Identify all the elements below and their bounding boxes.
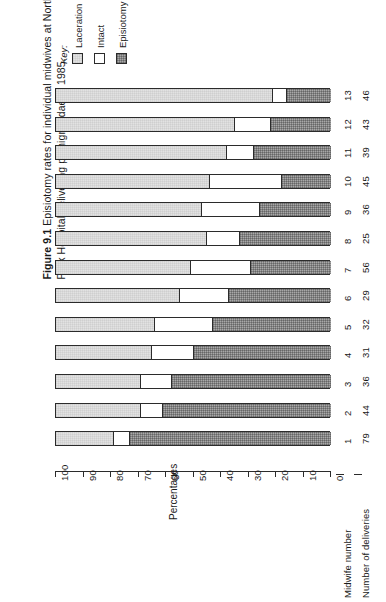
segment-episiotomy [287,89,331,102]
segment-intact [202,203,260,216]
deliveries-count-8: 25 [360,233,371,244]
deliveries-count-11: 39 [360,147,371,158]
midwife-number-8: 8 [342,239,353,244]
legend-label-laceration: Laceration [73,4,84,48]
segment-episiotomy [251,261,331,274]
deliveries-count-13: 46 [360,90,371,101]
midwife-number-6: 6 [342,296,353,301]
segment-episiotomy [254,146,331,159]
axis-tick-20 [275,471,276,477]
axis-tick-label-20: 20 [279,470,290,481]
segment-laceration [56,432,114,445]
row-header-midwife: Midwife number [342,530,353,598]
axis-tick-70 [138,471,139,477]
segment-intact [152,346,193,359]
segment-episiotomy [229,289,331,302]
axis-tick-label-40: 40 [224,470,235,481]
bar-midwife-11 [55,145,330,160]
bar-midwife-4 [55,345,330,360]
row-header-deliveries: Number of deliveries [360,509,371,598]
midwife-number-12: 12 [342,119,353,130]
deliveries-count-9: 36 [360,204,371,215]
segment-intact [155,318,213,331]
deliveries-count-3: 36 [360,376,371,387]
axis-tick-40 [220,471,221,477]
midwife-number-13: 13 [342,90,353,101]
segment-laceration [56,146,227,159]
deliveries-count-4: 31 [360,347,371,358]
bar-midwife-8 [55,231,330,246]
segment-intact [227,146,255,159]
deliveries-header-dash [354,474,362,475]
segment-episiotomy [213,318,331,331]
segment-laceration [56,318,155,331]
segment-laceration [56,261,191,274]
segment-laceration [56,175,210,188]
axis-tick-label-50: 50 [197,470,208,481]
segment-episiotomy [240,232,331,245]
midwife-number-2: 2 [342,410,353,415]
segment-intact [235,118,271,131]
legend-swatch-intact [94,53,105,64]
legend-swatch-episiotomy [116,53,127,64]
segment-episiotomy [172,375,332,388]
segment-episiotomy [260,203,332,216]
axis-tick-label-0: 0 [334,476,345,481]
axis-tick-10 [303,471,304,477]
deliveries-count-5: 32 [360,319,371,330]
axis-tick-label-100: 100 [59,465,70,481]
midwife-number-3: 3 [342,382,353,387]
midwife-number-9: 9 [342,210,353,215]
axis-tick-80 [110,471,111,477]
legend-swatch-laceration [72,53,83,64]
segment-intact [210,175,282,188]
deliveries-count-1: 79 [360,433,371,444]
segment-laceration [56,118,235,131]
figure-page: Figure 9.1 Episiotomy rates for individu… [0,0,386,602]
midwife-number-7: 7 [342,267,353,272]
bar-midwife-2 [55,403,330,418]
segment-laceration [56,404,141,417]
axis-tick-0 [330,471,331,477]
segment-episiotomy [130,432,331,445]
bar-midwife-10 [55,174,330,189]
midwife-number-5: 5 [342,324,353,329]
bar-midwife-9 [55,202,330,217]
bar-midwife-13 [55,88,330,103]
segment-intact [141,375,171,388]
segment-intact [141,404,163,417]
segment-laceration [56,89,273,102]
segment-laceration [56,232,207,245]
midwife-number-1: 1 [342,439,353,444]
axis-tick-30 [248,471,249,477]
bar-midwife-1 [55,431,330,446]
segment-laceration [56,289,180,302]
segment-episiotomy [271,118,332,131]
legend-title: Key: [58,45,69,64]
midwife-header-dash [336,474,344,475]
segment-laceration [56,203,202,216]
legend-label-episiotomy: Episiotomy [117,2,128,48]
axis-tick-100 [55,471,56,477]
segment-laceration [56,346,152,359]
deliveries-count-12: 43 [360,119,371,130]
segment-intact [273,89,287,102]
bar-midwife-7 [55,260,330,275]
bar-midwife-3 [55,374,330,389]
axis-tick-label-90: 90 [87,470,98,481]
midwife-number-4: 4 [342,353,353,358]
segment-intact [114,432,131,445]
segment-intact [191,261,252,274]
axis-title-percentages: Percentages [168,464,179,520]
axis-tick-50 [193,471,194,477]
axis-tick-90 [83,471,84,477]
segment-episiotomy [163,404,331,417]
deliveries-count-6: 29 [360,290,371,301]
axis-tick-label-80: 80 [114,470,125,481]
chart-area: Key: LacerationIntactEpisiotomy 10090807… [50,0,386,602]
axis-tick-label-30: 30 [252,470,263,481]
segment-laceration [56,375,141,388]
axis-tick-label-70: 70 [142,470,153,481]
legend-label-intact: Intact [95,25,106,48]
axis-tick-60 [165,471,166,477]
